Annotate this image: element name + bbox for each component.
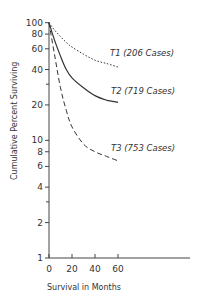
x-tick-label: 60 — [112, 264, 124, 274]
y-tick-label: 1 — [37, 253, 43, 263]
y-tick-label: 40 — [32, 65, 44, 75]
y-axis-ticks: 124681020406080100 — [26, 18, 49, 263]
x-tick-label: 20 — [66, 264, 78, 274]
series-label-t1: T1 (206 Cases) — [110, 48, 174, 58]
y-tick-label: 2 — [37, 218, 43, 228]
series-line-t2 — [49, 23, 118, 103]
series-label-t2: T2 (719 Cases) — [111, 86, 175, 96]
x-tick-label: 40 — [89, 264, 101, 274]
y-tick-label: 8 — [37, 147, 43, 157]
y-tick-label: 100 — [26, 18, 43, 28]
series-line-t3 — [49, 23, 118, 161]
x-axis-title: Survival in Months — [47, 283, 121, 292]
y-axis-title: Cumulative Percent Surviving — [10, 62, 19, 180]
y-tick-label: 6 — [37, 161, 43, 171]
survival-chart: 124681020406080100 0204060 T1 (206 Cases… — [0, 0, 200, 302]
series-lines — [49, 23, 118, 161]
y-tick-label: 10 — [32, 135, 44, 145]
y-tick-label: 4 — [37, 182, 43, 192]
y-tick-label: 20 — [32, 100, 44, 110]
series-label-t3: T3 (753 Cases) — [111, 143, 175, 153]
y-tick-label: 80 — [32, 29, 44, 39]
x-axis-ticks: 0204060 — [46, 254, 124, 274]
x-tick-label: 0 — [46, 264, 52, 274]
series-line-t1 — [49, 23, 118, 67]
y-tick-label: 60 — [32, 44, 44, 54]
